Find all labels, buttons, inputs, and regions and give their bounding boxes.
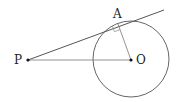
point-o-dot bbox=[129, 58, 132, 61]
label-p: P bbox=[14, 53, 22, 67]
tangent-diagram: P O A bbox=[0, 0, 178, 102]
label-o: O bbox=[136, 53, 146, 67]
point-p-dot bbox=[26, 58, 29, 61]
label-a: A bbox=[112, 7, 122, 21]
radius-oa bbox=[118, 24, 131, 60]
